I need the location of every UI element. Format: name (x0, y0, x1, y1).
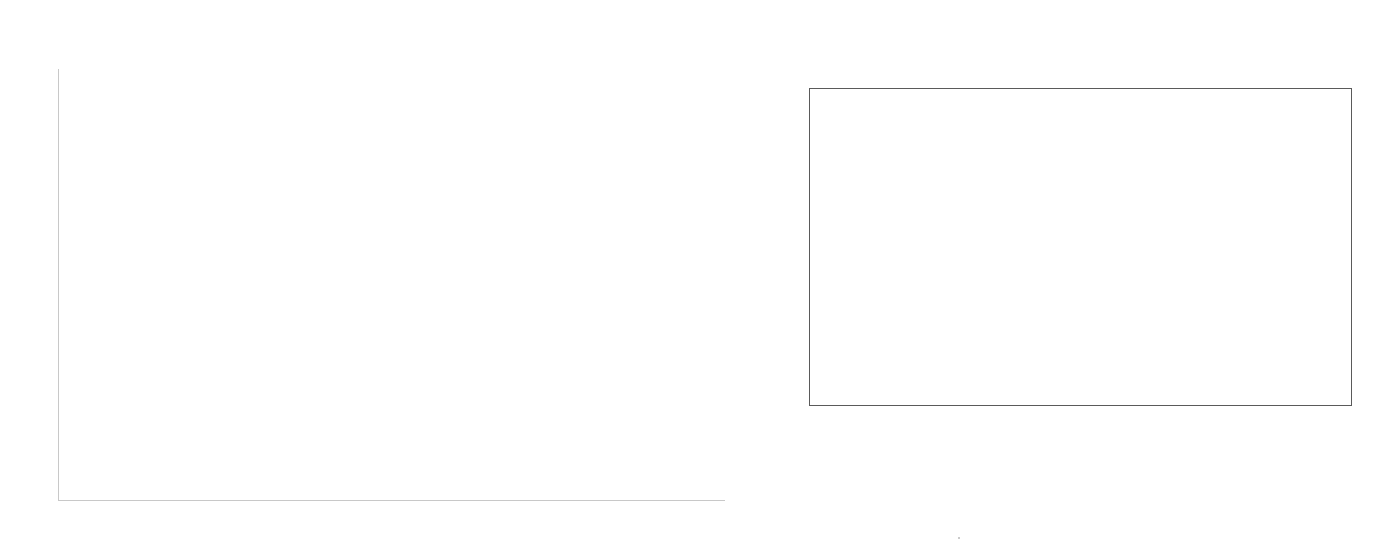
left-chart-plot-area (58, 69, 725, 501)
left-chart-y-axis-label (10, 69, 26, 501)
right-chart-y-axis-label (752, 88, 770, 406)
page-speck (958, 537, 960, 539)
left-y-axis-line (58, 69, 59, 501)
minitab-probability-plot-panel (740, 0, 1379, 551)
normal-probability-plot-panel (0, 14, 740, 551)
left-x-axis-line (58, 500, 725, 501)
right-chart-plot-area (809, 88, 1352, 406)
